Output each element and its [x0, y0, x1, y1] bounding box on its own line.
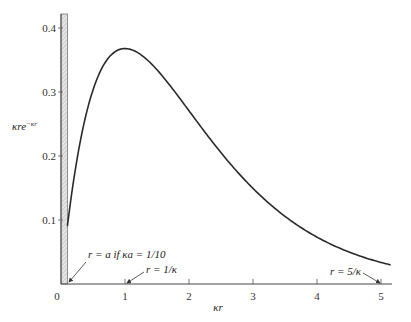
y-tick-label: 0.2 — [42, 150, 56, 162]
arrow-r-equals-5-over-kappa — [363, 273, 380, 283]
x-ticks: 12345 — [122, 279, 384, 302]
x-tick-label: 3 — [250, 290, 256, 302]
x-tick-label: 4 — [314, 290, 320, 302]
arrow-r-equals-a — [69, 262, 86, 282]
y-ticks: 0.10.20.30.4 — [42, 22, 63, 226]
annotation-r-equals-1-over-kappa: r = 1/κ — [146, 263, 178, 275]
chart: 12345 0.10.20.30.4 0 κre−κr κr r = a if … — [0, 0, 411, 322]
annotation-r-equals-5-over-kappa: r = 5/κ — [330, 265, 362, 277]
y-axis-label: κre−κr — [12, 120, 37, 132]
x-tick-label: 2 — [186, 290, 192, 302]
origin-label: 0 — [54, 290, 60, 302]
y-tick-label: 0.4 — [42, 22, 56, 34]
annotation-r-equals-a: r = a if κa = 1/10 — [88, 248, 166, 260]
x-tick-label: 1 — [122, 290, 128, 302]
x-tick-label: 5 — [378, 290, 384, 302]
arrow-r-equals-1-over-kappa — [127, 272, 144, 283]
y-tick-label: 0.1 — [42, 214, 56, 226]
curve-kre-kr — [67, 49, 390, 265]
y-tick-label: 0.3 — [42, 86, 56, 98]
x-axis-label: κr — [213, 301, 223, 313]
excluded-region — [61, 14, 67, 284]
